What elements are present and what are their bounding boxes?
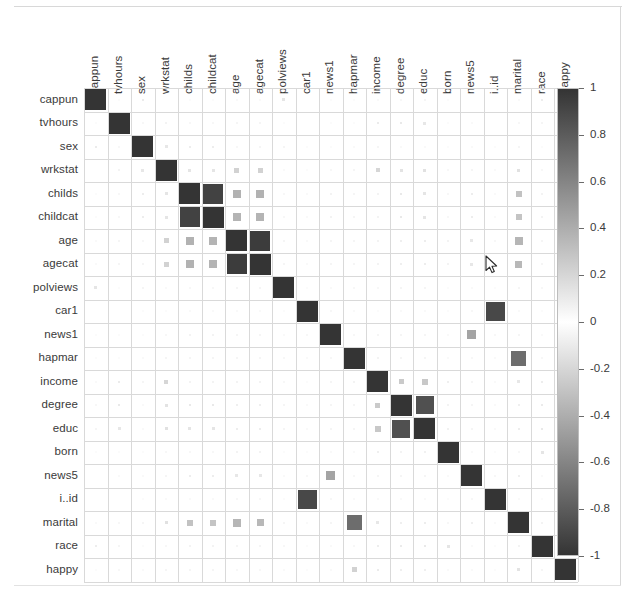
heatmap-cell[interactable] <box>109 113 130 134</box>
heatmap-cell[interactable] <box>330 240 332 242</box>
heatmap-cell[interactable] <box>423 169 426 172</box>
heatmap-cell[interactable] <box>541 216 543 218</box>
heatmap-cell[interactable] <box>259 99 261 101</box>
heatmap-cell[interactable] <box>94 286 97 289</box>
heatmap-cell[interactable] <box>306 193 308 195</box>
heatmap-cell[interactable] <box>353 216 355 218</box>
heatmap-cell[interactable] <box>212 427 215 430</box>
heatmap-cell[interactable] <box>471 404 473 406</box>
heatmap-cell[interactable] <box>344 348 365 369</box>
heatmap-cell[interactable] <box>164 262 169 267</box>
heatmap-cell[interactable] <box>494 287 496 289</box>
heatmap-cell[interactable] <box>259 122 261 124</box>
heatmap-cell[interactable] <box>353 381 355 383</box>
heatmap-cell[interactable] <box>189 287 191 289</box>
heatmap-cell[interactable] <box>142 404 144 406</box>
heatmap-cell[interactable] <box>377 498 379 500</box>
heatmap-cell[interactable] <box>188 427 191 430</box>
heatmap-cell[interactable] <box>233 213 241 221</box>
heatmap-cell[interactable] <box>212 498 214 500</box>
heatmap-cell[interactable] <box>541 475 543 477</box>
heatmap-cell[interactable] <box>283 122 285 124</box>
heatmap-cell[interactable] <box>330 404 332 406</box>
heatmap-cell[interactable] <box>377 334 379 336</box>
heatmap-cell[interactable] <box>330 381 332 383</box>
heatmap-cell[interactable] <box>424 475 426 477</box>
heatmap-cell[interactable] <box>416 396 434 414</box>
heatmap-cell[interactable] <box>424 569 426 571</box>
heatmap-cell[interactable] <box>273 277 294 298</box>
heatmap-cell[interactable] <box>95 545 97 547</box>
heatmap-cell[interactable] <box>392 420 410 438</box>
heatmap-cell[interactable] <box>189 545 191 547</box>
heatmap-cell[interactable] <box>118 404 120 406</box>
heatmap-cell[interactable] <box>447 428 449 430</box>
heatmap-cell[interactable] <box>212 310 214 312</box>
heatmap-cell[interactable] <box>508 512 529 533</box>
heatmap-cell[interactable] <box>447 146 449 148</box>
heatmap-cell[interactable] <box>283 498 285 500</box>
heatmap-cell[interactable] <box>330 310 332 312</box>
heatmap-cell[interactable] <box>471 216 473 218</box>
heatmap-cell[interactable] <box>377 475 379 477</box>
heatmap-grid[interactable] <box>84 88 578 582</box>
heatmap-cell[interactable] <box>494 357 496 359</box>
heatmap-cell[interactable] <box>236 334 238 336</box>
heatmap-cell[interactable] <box>400 287 402 289</box>
heatmap-cell[interactable] <box>377 310 379 312</box>
heatmap-cell[interactable] <box>306 404 308 406</box>
heatmap-cell[interactable] <box>471 169 473 171</box>
heatmap-cell[interactable] <box>142 99 144 101</box>
heatmap-cell[interactable] <box>236 428 238 430</box>
heatmap-cell[interactable] <box>306 357 308 359</box>
heatmap-cell[interactable] <box>516 214 522 220</box>
heatmap-cell[interactable] <box>164 380 168 384</box>
heatmap-cell[interactable] <box>165 498 167 500</box>
heatmap-cell[interactable] <box>424 240 426 242</box>
heatmap-cell[interactable] <box>189 310 191 312</box>
heatmap-cell[interactable] <box>250 254 271 275</box>
heatmap-cell[interactable] <box>95 146 97 148</box>
heatmap-cell[interactable] <box>494 146 496 148</box>
heatmap-cell[interactable] <box>424 146 426 148</box>
heatmap-cell[interactable] <box>142 287 144 289</box>
heatmap-cell[interactable] <box>424 357 426 359</box>
heatmap-cell[interactable] <box>377 240 379 242</box>
heatmap-cell[interactable] <box>165 427 168 430</box>
heatmap-cell[interactable] <box>330 498 332 500</box>
heatmap-cell[interactable] <box>353 146 355 148</box>
heatmap-cell[interactable] <box>400 334 402 336</box>
heatmap-cell[interactable] <box>306 475 308 477</box>
heatmap-cell[interactable] <box>377 122 379 124</box>
heatmap-cell[interactable] <box>250 231 270 251</box>
heatmap-cell[interactable] <box>494 522 496 524</box>
heatmap-cell[interactable] <box>236 545 238 547</box>
heatmap-cell[interactable] <box>461 465 482 486</box>
heatmap-cell[interactable] <box>541 240 543 242</box>
heatmap-cell[interactable] <box>165 451 167 453</box>
heatmap-cell[interactable] <box>541 357 543 359</box>
heatmap-cell[interactable] <box>353 404 355 406</box>
heatmap-cell[interactable] <box>142 428 144 430</box>
heatmap-cell[interactable] <box>353 99 355 101</box>
heatmap-cell[interactable] <box>517 169 520 172</box>
heatmap-cell[interactable] <box>165 122 167 124</box>
heatmap-cell[interactable] <box>132 136 153 157</box>
heatmap-cell[interactable] <box>541 404 543 406</box>
heatmap-cell[interactable] <box>485 489 506 510</box>
heatmap-cell[interactable] <box>212 122 214 124</box>
heatmap-cell[interactable] <box>518 451 520 453</box>
heatmap-cell[interactable] <box>203 207 224 228</box>
heatmap-cell[interactable] <box>353 498 355 500</box>
heatmap-cell[interactable] <box>330 428 332 430</box>
heatmap-cell[interactable] <box>306 216 308 218</box>
heatmap-cell[interactable] <box>212 146 214 148</box>
heatmap-cell[interactable] <box>424 498 426 500</box>
heatmap-cell[interactable] <box>400 498 402 500</box>
heatmap-cell[interactable] <box>189 334 191 336</box>
heatmap-cell[interactable] <box>118 381 120 383</box>
heatmap-cell[interactable] <box>95 428 97 430</box>
heatmap-cell[interactable] <box>330 169 332 171</box>
heatmap-cell[interactable] <box>233 519 241 527</box>
heatmap-cell[interactable] <box>235 474 238 477</box>
